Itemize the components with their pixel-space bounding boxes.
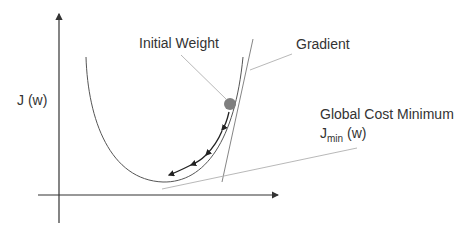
initial-weight-label: Initial Weight: [139, 36, 219, 50]
y-axis-label: J (w): [17, 93, 47, 107]
gradient-leader: [250, 54, 292, 70]
jmin-label: Jmin (w): [320, 126, 366, 144]
initial-weight-leader: [181, 55, 226, 99]
minimum-line: [162, 148, 357, 189]
gradient-label: Gradient: [296, 37, 350, 51]
global-min-label: Global Cost Minimum: [320, 107, 454, 121]
gradient-descent-diagram: J (w) Initial Weight Gradient Global Cos…: [0, 0, 471, 236]
initial-weight-dot: [224, 98, 236, 110]
cost-curve: [86, 57, 243, 182]
gradient-tangent-line: [222, 39, 253, 182]
